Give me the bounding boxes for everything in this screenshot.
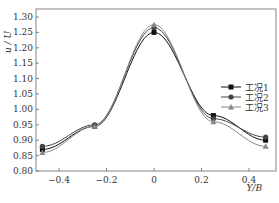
series-case-2-marker xyxy=(263,135,268,140)
y-tick-label: 0.95 xyxy=(13,120,33,130)
legend-1-marker xyxy=(229,85,234,90)
series-case-3-marker xyxy=(151,22,157,28)
series-case-1 xyxy=(40,30,268,152)
legend-label: 工况3 xyxy=(245,103,269,113)
y-axis-label: u / U xyxy=(3,31,13,54)
y-tick-label: 1.20 xyxy=(13,43,33,53)
series-case-1-marker xyxy=(152,30,157,35)
x-tick-label: −0.4 xyxy=(48,175,70,185)
y-tick-label: 1.25 xyxy=(13,27,33,37)
legend-item-2: 工况2 xyxy=(221,93,269,103)
y-tick-label: 1.30 xyxy=(13,12,33,22)
x-tick-label: 0 xyxy=(151,175,157,185)
y-tick-label: 1.15 xyxy=(13,58,33,68)
legend-item-3: 工况3 xyxy=(221,103,269,113)
x-axis-label: Y/B xyxy=(246,183,262,193)
legend-2-marker xyxy=(228,94,233,99)
series-case-1-line xyxy=(42,32,265,149)
x-tick-label: 0.2 xyxy=(194,175,208,185)
series-case-2-marker xyxy=(40,144,45,149)
y-tick-label: 0.80 xyxy=(13,166,33,176)
y-tick-label: 1.05 xyxy=(13,89,33,99)
x-tick-label: −0.2 xyxy=(96,175,118,185)
y-tick-label: 0.90 xyxy=(13,135,33,145)
legend-label: 工况2 xyxy=(245,93,269,103)
x-axis-ticks: −0.4−0.200.20.4 xyxy=(48,168,256,185)
legend-item-1: 工况1 xyxy=(221,83,269,93)
y-tick-label: 1.10 xyxy=(13,74,33,84)
legend-label: 工况1 xyxy=(245,83,269,93)
line-chart: 0.800.850.900.951.001.051.101.151.201.25… xyxy=(0,0,279,203)
series-case-3 xyxy=(39,22,268,155)
data-series xyxy=(39,22,268,155)
y-tick-label: 1.00 xyxy=(13,104,33,114)
legend: 工况1工况2工况3 xyxy=(221,83,269,113)
y-tick-label: 0.85 xyxy=(13,151,33,161)
y-axis-ticks: 0.800.850.900.951.001.051.101.151.201.25… xyxy=(13,12,39,176)
